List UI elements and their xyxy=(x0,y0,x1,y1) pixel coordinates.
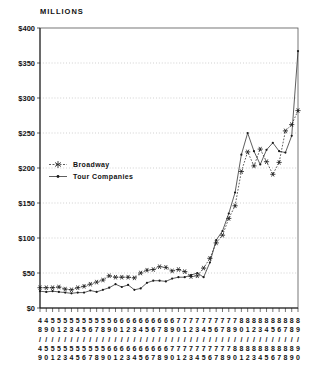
tour-dot-marker-icon xyxy=(48,172,68,181)
broadway-marker xyxy=(163,265,168,270)
x-tick-label: 73/74 xyxy=(195,317,199,361)
tour-marker xyxy=(196,272,198,274)
broadway-marker xyxy=(107,274,112,279)
tour-marker xyxy=(64,292,66,294)
x-tick-label: 49/50 xyxy=(44,317,48,361)
x-tick-label: 69/70 xyxy=(170,317,174,361)
tour-marker xyxy=(127,284,129,286)
broadway-marker xyxy=(176,267,181,272)
x-tick-label: 55/56 xyxy=(82,317,86,361)
x-tick-label: 59/60 xyxy=(107,317,111,361)
broadway-marker xyxy=(151,267,156,272)
x-tick-label: 70/71 xyxy=(176,317,180,361)
broadway-marker xyxy=(157,264,162,269)
x-tick-label: 78/79 xyxy=(227,317,231,361)
tour-marker xyxy=(108,287,110,289)
tour-marker xyxy=(39,290,41,292)
broadway-marker xyxy=(69,288,74,293)
x-tick-label: 74/75 xyxy=(202,317,206,361)
broadway-marker xyxy=(113,275,118,280)
broadway-marker xyxy=(239,169,244,174)
tour-marker xyxy=(209,261,211,263)
x-tick-label: 88/89 xyxy=(290,317,294,361)
tour-marker xyxy=(259,163,261,165)
x-tick-label: 60/61 xyxy=(114,317,118,361)
broadway-marker xyxy=(125,275,130,280)
tour-marker xyxy=(253,150,255,152)
broadway-marker xyxy=(119,275,124,280)
tour-marker xyxy=(284,152,286,154)
broadway-marker xyxy=(170,269,175,274)
tour-marker xyxy=(234,191,236,193)
legend-item-broadway: Broadway xyxy=(48,158,133,170)
tour-marker xyxy=(89,289,91,291)
tour-marker xyxy=(184,276,186,278)
x-tick-label: 77/78 xyxy=(221,317,225,361)
tour-marker xyxy=(240,154,242,156)
legend-item-tour-companies: Tour Companies xyxy=(48,170,133,182)
tour-marker xyxy=(58,291,60,293)
tour-marker xyxy=(133,289,135,291)
x-tick-label: 66/67 xyxy=(151,317,155,361)
x-tick-label: 52/53 xyxy=(63,317,67,361)
tour-marker xyxy=(203,276,205,278)
tour-marker xyxy=(177,276,179,278)
broadway-marker xyxy=(264,159,269,164)
tour-marker xyxy=(83,292,85,294)
x-tick-label: 86/87 xyxy=(277,317,281,361)
x-tick-label: 67/68 xyxy=(158,317,162,361)
tour-marker xyxy=(297,50,299,52)
x-tick-label: 85/86 xyxy=(271,317,275,361)
x-tick-label: 76/77 xyxy=(214,317,218,361)
broadway-marker xyxy=(63,287,68,292)
tour-marker xyxy=(45,291,47,293)
broadway-marker xyxy=(81,284,86,289)
x-tick-label: 58/59 xyxy=(101,317,105,361)
tour-marker xyxy=(70,292,72,294)
tour-marker xyxy=(102,289,104,291)
x-tick-label: 72/73 xyxy=(189,317,193,361)
tour-marker xyxy=(171,278,173,280)
broadway-marker xyxy=(270,172,275,177)
legend-label-broadway: Broadway xyxy=(73,161,110,168)
tour-marker xyxy=(77,292,79,294)
tour-marker xyxy=(51,290,53,292)
x-tick-label: 56/57 xyxy=(88,317,92,361)
x-tick-label: 51/52 xyxy=(57,317,61,361)
tour-marker xyxy=(215,239,217,241)
tour-marker xyxy=(221,230,223,232)
tour-marker xyxy=(140,287,142,289)
broadway-marker xyxy=(289,122,294,127)
tour-marker xyxy=(114,283,116,285)
broadway-marker xyxy=(44,285,49,290)
broadway-series-line xyxy=(40,111,298,290)
x-tick-label: 71/72 xyxy=(183,317,187,361)
x-tick-label: 80/81 xyxy=(239,317,243,361)
x-tick-label: 79/80 xyxy=(233,317,237,361)
broadway-asterisk-marker-icon xyxy=(48,160,68,169)
x-tick-label: 63/64 xyxy=(132,317,136,361)
x-tick-label: 54/55 xyxy=(76,317,80,361)
broadway-marker xyxy=(56,285,61,290)
tour-marker xyxy=(228,212,230,214)
tour-marker xyxy=(152,280,154,282)
x-tick-label: 53/54 xyxy=(70,317,74,361)
broadway-marker xyxy=(251,164,256,169)
legend: Broadway Tour Companies xyxy=(48,158,133,182)
tour-marker xyxy=(121,286,123,288)
broadway-marker xyxy=(201,266,206,271)
x-tick-label: 89/90 xyxy=(296,317,300,361)
tour-marker xyxy=(165,280,167,282)
tour-marker xyxy=(158,280,160,282)
tour-marker xyxy=(291,135,293,137)
tour-marker xyxy=(190,274,192,276)
x-tick-label: 81/82 xyxy=(246,317,250,361)
x-tick-label: 75/76 xyxy=(208,317,212,361)
broadway-vs-tour-gross-chart: MILLIONS $0$50$100$150$200$250$300$350$4… xyxy=(0,0,312,369)
tour-marker xyxy=(272,142,274,144)
x-tick-label: 61/62 xyxy=(120,317,124,361)
x-tick-label: 65/66 xyxy=(145,317,149,361)
broadway-marker xyxy=(88,282,93,287)
x-tick-label: 82/83 xyxy=(252,317,256,361)
tour-marker xyxy=(247,132,249,134)
